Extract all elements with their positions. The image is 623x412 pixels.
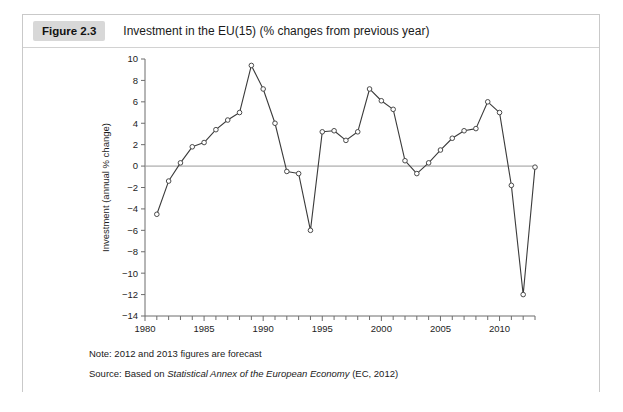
- x-tick-label: 1995: [312, 323, 333, 334]
- y-tick-label: 8: [133, 75, 138, 86]
- data-point: [202, 140, 207, 145]
- x-tick-label: 2005: [430, 323, 451, 334]
- chart-note: Note: 2012 and 2013 figures are forecast: [89, 348, 262, 359]
- data-point: [344, 138, 349, 143]
- data-point: [462, 128, 467, 133]
- x-tick-label: 2000: [371, 323, 392, 334]
- y-tick-label: −12: [122, 289, 138, 300]
- data-point: [296, 171, 301, 176]
- x-axis: 1980198519901995200020052010: [134, 316, 535, 334]
- data-point: [450, 136, 455, 141]
- chart-source: Source: Based on Statistical Annex of th…: [89, 368, 398, 379]
- x-tick-label: 2010: [489, 323, 510, 334]
- figure-header: Figure 2.3 Investment in the EU(15) (% c…: [23, 15, 599, 48]
- data-point: [438, 148, 443, 153]
- chart-plot-area: 1086420−2−4−6−8−10−12−14 198019851990199…: [23, 48, 599, 348]
- y-tick-label: 6: [133, 96, 138, 107]
- y-tick-label: 4: [133, 118, 138, 129]
- data-point: [426, 161, 431, 166]
- data-point: [320, 130, 325, 135]
- y-tick-label: 10: [127, 53, 138, 64]
- data-point: [166, 179, 171, 184]
- line-chart: 1086420−2−4−6−8−10−12−14 198019851990199…: [23, 48, 599, 348]
- data-point: [190, 145, 195, 150]
- data-point: [261, 87, 266, 92]
- figure-number-badge: Figure 2.3: [33, 21, 105, 41]
- data-point: [332, 128, 337, 133]
- data-point: [285, 169, 290, 174]
- y-tick-label: −4: [127, 203, 138, 214]
- source-suffix: (EC, 2012): [350, 368, 399, 379]
- y-tick-label: 0: [133, 160, 138, 171]
- figure-card: Figure 2.3 Investment in the EU(15) (% c…: [22, 14, 600, 392]
- source-italic-title: Statistical Annex of the European Econom…: [167, 368, 349, 379]
- data-point: [308, 228, 313, 233]
- y-axis: 1086420−2−4−6−8−10−12−14: [122, 53, 145, 321]
- data-point: [391, 107, 396, 112]
- figure-body: 1086420−2−4−6−8−10−12−14 198019851990199…: [23, 48, 599, 392]
- y-tick-label: −14: [122, 310, 138, 321]
- y-tick-label: −10: [122, 268, 138, 279]
- data-point: [415, 171, 420, 176]
- data-point: [225, 118, 230, 123]
- y-tick-label: −8: [127, 246, 138, 257]
- data-point: [485, 100, 490, 105]
- data-point: [249, 63, 254, 68]
- data-point: [367, 87, 372, 92]
- y-tick-label: −6: [127, 225, 138, 236]
- figure-title: Investment in the EU(15) (% changes from…: [123, 24, 429, 38]
- y-axis-title: Investment (annual % change): [100, 123, 111, 252]
- y-tick-label: −2: [127, 182, 138, 193]
- data-point-markers: [155, 63, 538, 297]
- data-point: [533, 165, 538, 170]
- data-point: [155, 212, 160, 217]
- data-point: [474, 126, 479, 131]
- data-point: [214, 127, 219, 132]
- data-point: [521, 292, 526, 297]
- data-point: [379, 98, 384, 103]
- data-point: [273, 121, 278, 126]
- x-tick-label: 1990: [253, 323, 274, 334]
- data-point: [497, 110, 502, 115]
- x-tick-label: 1985: [194, 323, 215, 334]
- data-point: [178, 161, 183, 166]
- data-point: [403, 158, 408, 163]
- data-point: [237, 110, 242, 115]
- data-point: [355, 130, 360, 135]
- x-tick-label: 1980: [134, 323, 155, 334]
- data-point: [509, 183, 514, 188]
- source-prefix: Source: Based on: [89, 368, 167, 379]
- investment-series-line: [157, 65, 535, 294]
- y-tick-label: 2: [133, 139, 138, 150]
